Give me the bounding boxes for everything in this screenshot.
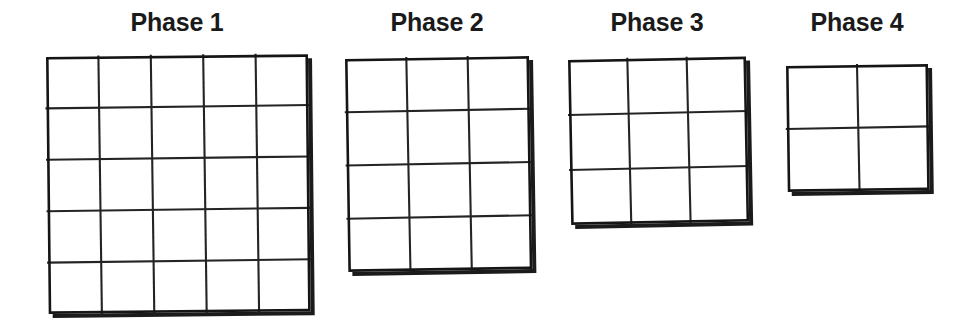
grid-canvas-3 (568, 57, 749, 225)
grid-canvas-1 (46, 54, 311, 314)
phase-group-2: Phase 2 (345, 0, 529, 329)
phase-title-2: Phase 2 (345, 10, 529, 35)
phase-grid-1 (46, 54, 311, 314)
phase-grid-figure: Phase 1Phase 2Phase 3Phase 4 (0, 0, 971, 329)
phase-title-3: Phase 3 (568, 10, 746, 35)
phase-group-3: Phase 3 (568, 0, 746, 329)
phase-grid-2 (345, 56, 532, 272)
grid-canvas-4 (786, 64, 930, 192)
phase-title-4: Phase 4 (786, 10, 928, 35)
grid-canvas-2 (345, 56, 532, 272)
phase-grid-3 (568, 57, 749, 225)
phase-group-1: Phase 1 (46, 0, 308, 329)
phase-group-4: Phase 4 (786, 0, 928, 329)
phase-title-1: Phase 1 (46, 10, 308, 35)
phase-grid-4 (786, 64, 930, 192)
grid-background (46, 54, 311, 314)
grid-background (568, 57, 749, 225)
